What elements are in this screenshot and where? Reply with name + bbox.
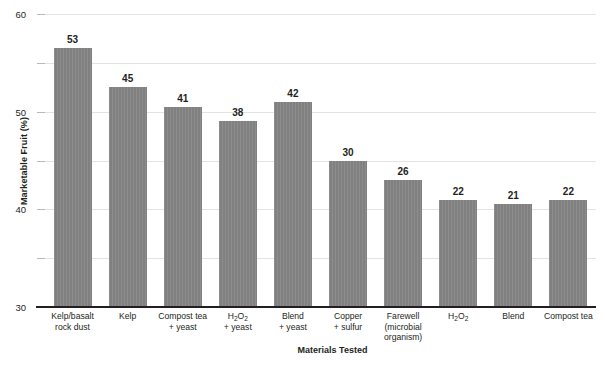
bar-chart: Marketable Fruit (%) 0102030405060 53454… [0,0,605,369]
bar-slot: 41 [155,14,210,307]
bar-slot: 21 [486,14,541,307]
bar-value-label: 45 [100,73,155,84]
bar-value-label: 21 [486,190,541,201]
bar [329,161,367,308]
bar-slot: 53 [45,14,100,307]
x-tick-label: H2O2+ yeast [210,311,265,343]
bar-value-label: 42 [265,88,320,99]
x-tick-label: H2O2 [431,311,486,343]
bar [274,102,312,307]
x-axis-title: Materials Tested [0,345,605,355]
bar [219,121,257,307]
y-tick-label: 40 [15,204,26,215]
x-tick-label: Compost tea [541,311,596,343]
y-tick-label: 30 [15,302,26,313]
y-tick-label: 50 [15,106,26,117]
bar [549,200,587,307]
bar [109,87,147,307]
bar [384,180,422,307]
x-axis-line [36,306,596,308]
y-tick-mark: 30 [37,161,45,162]
bar-value-label: 53 [45,34,100,45]
bar-value-label: 22 [541,186,596,197]
y-tick-mark: 50 [37,63,45,64]
bar-slot: 22 [541,14,596,307]
y-tick-mark: 10 [37,258,45,259]
y-tick-mark: 40 [37,112,45,113]
bar-slot: 42 [265,14,320,307]
bar-slot: 30 [320,14,375,307]
bar-slot: 45 [100,14,155,307]
bar-value-label: 26 [376,166,431,177]
x-tick-label: Kelp/basaltrock dust [45,311,100,343]
bar [439,200,477,307]
bar-value-label: 30 [320,147,375,158]
x-tick-label: Blend [486,311,541,343]
x-tick-label: Blend+ yeast [265,311,320,343]
bar-slot: 26 [376,14,431,307]
y-tick-label: 60 [15,9,26,20]
bar-value-label: 22 [431,186,486,197]
y-tick-mark: 60 [37,14,45,15]
x-tick-label: Farewell(microbialorganism) [376,311,431,343]
x-tick-label: Compost tea+ yeast [155,311,210,343]
bar-value-label: 41 [155,93,210,104]
bar [54,48,92,307]
bar-series: 53454138423026222122 [45,14,596,307]
x-tick-label: Kelp [100,311,155,343]
bar [164,107,202,307]
plot-area: 0102030405060 53454138423026222122 [45,14,596,307]
bar-slot: 38 [210,14,265,307]
y-tick-mark: 20 [37,209,45,210]
bar-slot: 22 [431,14,486,307]
y-axis-title: Marketable Fruit (%) [19,41,29,281]
bar-value-label: 38 [210,107,265,118]
x-axis-labels: Kelp/basaltrock dustKelpCompost tea+ yea… [45,311,596,343]
bar [494,204,532,307]
x-tick-label: Copper+ sulfur [320,311,375,343]
